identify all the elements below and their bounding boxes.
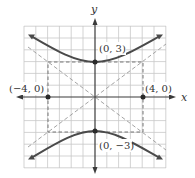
point-left-label: (−4, 0) (9, 83, 44, 94)
vertex-top-label: (0, 3) (99, 43, 126, 54)
hyperbola-graph: (0, 3) (0, −3) (−4, 0) (4, 0) x y (0, 0, 195, 178)
y-axis-label: y (90, 3, 98, 16)
vertex-bottom-label: (0, −3) (99, 140, 134, 151)
x-axis-label: x (181, 91, 188, 104)
y-axis-arrow-down-icon (93, 167, 98, 174)
x-axis-arrow-right-icon (169, 95, 176, 100)
vertex-top-point (93, 60, 98, 65)
point-left (46, 95, 51, 100)
x-axis-arrow-left-icon (16, 95, 23, 100)
point-right (141, 95, 146, 100)
point-right-label: (4, 0) (145, 83, 172, 94)
y-axis-arrow-up-icon (93, 18, 98, 25)
vertex-bottom-point (93, 129, 98, 134)
